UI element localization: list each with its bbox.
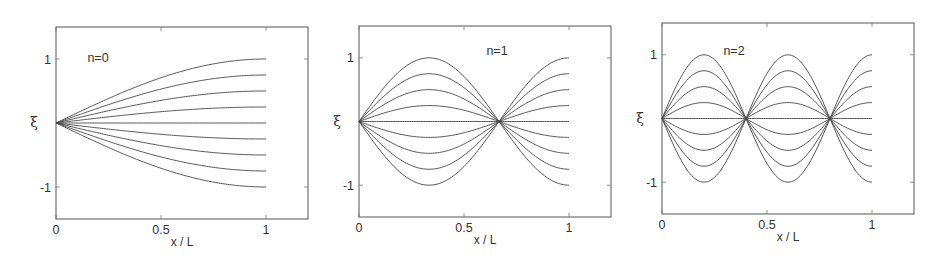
x-tick-label: 0 — [53, 223, 60, 237]
panel-n0: 00.511-1x / Lξn=0 — [30, 27, 308, 249]
mode-curve — [56, 107, 266, 123]
mode-annotation: n=0 — [87, 51, 108, 65]
y-axis-label: ξ — [636, 110, 644, 126]
mode-annotation: n=2 — [723, 44, 744, 58]
mode-curve — [56, 59, 266, 123]
panel-n1: 00.511-1x / Lξn=1 — [333, 26, 611, 247]
y-tick-label: 1 — [650, 48, 657, 62]
x-axis-label: x / L — [777, 230, 800, 244]
panel-n2: 00.511-1x / Lξn=2 — [636, 23, 914, 244]
mode-curve — [56, 123, 266, 187]
y-tick-label: 1 — [347, 51, 354, 65]
x-axis-label: x / L — [474, 233, 497, 247]
figure: 00.511-1x / Lξn=0 00.511-1x / Lξn=1 00.5… — [0, 0, 946, 261]
y-tick-label: -1 — [343, 179, 354, 193]
y-axis-label: ξ — [333, 113, 341, 129]
x-tick-label: 0 — [356, 221, 363, 235]
y-tick-label: 1 — [44, 53, 51, 67]
mode-curve — [56, 123, 266, 139]
y-tick-label: -1 — [40, 181, 51, 195]
x-tick-label: 0 — [659, 218, 666, 232]
y-tick-label: -1 — [646, 176, 657, 190]
x-tick-label: 0.5 — [758, 218, 775, 232]
x-tick-label: 1 — [263, 223, 270, 237]
x-axis-label: x / L — [171, 235, 194, 249]
y-axis-label: ξ — [30, 114, 38, 130]
x-tick-label: 1 — [869, 218, 876, 232]
x-tick-label: 0.5 — [152, 223, 169, 237]
x-tick-label: 0.5 — [455, 221, 472, 235]
mode-annotation: n=1 — [486, 44, 507, 58]
x-tick-label: 1 — [566, 221, 573, 235]
